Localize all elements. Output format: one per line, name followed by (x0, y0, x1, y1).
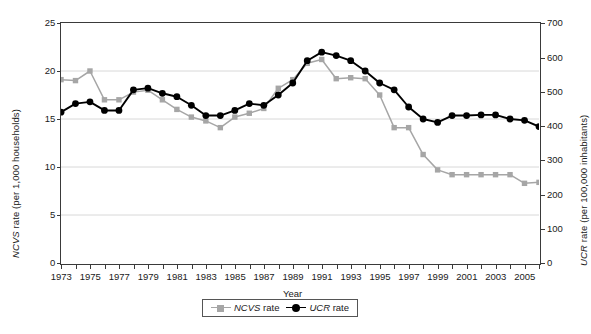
data-point (318, 49, 325, 56)
legend-label-ncvs: NCVS rate (234, 302, 279, 313)
x-axis-tick-label: 2005 (505, 271, 545, 282)
y-axis-right-label-prefix: UCR (578, 245, 589, 266)
data-point (478, 172, 483, 177)
y-axis-right-tick-mark (541, 58, 545, 59)
data-point (217, 112, 224, 119)
data-point (347, 57, 354, 64)
x-axis-tick-mark (76, 265, 77, 269)
data-point (203, 118, 208, 123)
x-axis-tick-mark (279, 265, 280, 269)
y-axis-left-label-prefix: NCVS (10, 231, 21, 258)
legend-label-ncvs-rest: rate (260, 302, 279, 313)
x-axis-tick-mark (380, 265, 381, 269)
data-point (87, 98, 94, 105)
y-axis-right-label-rest: rate (per 100,000 inhabitants) (578, 115, 589, 245)
y-axis-right-tick-mark (541, 229, 545, 230)
data-point (232, 114, 237, 119)
chart-figure: NCVS rate (per 1,000 households) UCR rat… (0, 0, 591, 334)
y-axis-right-tick-label: 400 (547, 120, 577, 131)
data-point (189, 114, 194, 119)
x-axis-tick-mark (148, 265, 149, 269)
data-point (507, 172, 512, 177)
data-point (61, 77, 64, 82)
data-point (246, 100, 253, 107)
y-axis-left-tick-label: 25 (29, 17, 55, 28)
data-point (101, 107, 108, 114)
data-point (449, 112, 456, 119)
data-point (391, 86, 398, 93)
data-point (449, 172, 454, 177)
y-axis-right-tick-label: 200 (547, 189, 577, 200)
data-point (435, 167, 440, 172)
data-point (536, 180, 539, 185)
data-point (522, 181, 527, 186)
x-axis-tick-mark (163, 265, 164, 269)
y-axis-left-tick-label: 20 (29, 65, 55, 76)
x-axis-tick-mark (221, 265, 222, 269)
data-point (334, 76, 339, 81)
data-point (304, 57, 311, 64)
x-axis-tick-mark (293, 265, 294, 269)
data-point (507, 116, 514, 123)
legend-item-ncvs: NCVS rate (211, 302, 279, 313)
y-axis-left-tick-label: 15 (29, 113, 55, 124)
data-point (260, 102, 267, 109)
data-point (145, 85, 152, 92)
x-axis-tick-mark (496, 265, 497, 269)
x-axis-tick-mark (337, 265, 338, 269)
x-axis-tick-mark (394, 265, 395, 269)
data-point (405, 104, 412, 111)
legend-item-ucr: UCR rate (286, 302, 349, 313)
data-point (276, 86, 281, 91)
data-point (319, 57, 324, 62)
y-axis-right-label: UCR rate (per 100,000 inhabitants) (578, 115, 589, 266)
x-axis-tick-mark (365, 265, 366, 269)
x-axis-tick-mark (264, 265, 265, 269)
data-point (362, 76, 367, 81)
y-axis-left-tick-label: 0 (29, 257, 55, 268)
x-axis-tick-mark (134, 265, 135, 269)
data-point (348, 75, 353, 80)
data-point (173, 93, 180, 100)
data-point (362, 68, 369, 75)
x-axis-tick-mark (539, 265, 540, 269)
x-axis-tick-mark (351, 265, 352, 269)
y-axis-left-tick-label: 5 (29, 209, 55, 220)
data-point (130, 86, 137, 93)
data-point (174, 107, 179, 112)
data-point (72, 100, 79, 107)
data-point (247, 111, 252, 116)
x-axis-tick-mark (452, 265, 453, 269)
data-point (478, 111, 485, 118)
y-axis-left-label: NCVS rate (per 1,000 households) (10, 109, 21, 258)
data-point (160, 97, 165, 102)
y-axis-right-tick-label: 500 (547, 86, 577, 97)
x-axis-tick-mark (250, 265, 251, 269)
x-axis-tick-mark (61, 265, 62, 269)
legend-label-ncvs-prefix: NCVS (234, 302, 260, 313)
data-point (536, 123, 539, 130)
data-point (391, 125, 396, 130)
circle-marker-icon (286, 304, 306, 312)
data-point (376, 80, 383, 87)
data-point (521, 117, 528, 124)
x-axis-tick-mark (481, 265, 482, 269)
plot-canvas (61, 23, 539, 263)
y-axis-left-label-rest: rate (per 1,000 households) (10, 109, 21, 231)
x-axis-tick-mark (438, 265, 439, 269)
legend-label-ucr-rest: rate (330, 302, 349, 313)
data-point (231, 107, 238, 114)
x-axis-tick-mark (90, 265, 91, 269)
data-point (87, 68, 92, 73)
data-point (420, 152, 425, 157)
chart-legend: NCVS rate UCR rate (202, 299, 358, 317)
y-axis-right-tick-mark (541, 195, 545, 196)
data-point (188, 102, 195, 109)
x-axis-tick-mark (177, 265, 178, 269)
y-axis-right-tick-mark (541, 23, 545, 24)
legend-label-ucr: UCR rate (309, 302, 349, 313)
y-axis-right-tick-label: 300 (547, 154, 577, 165)
x-axis-tick-mark (235, 265, 236, 269)
data-point (102, 97, 107, 102)
data-point (434, 119, 441, 126)
